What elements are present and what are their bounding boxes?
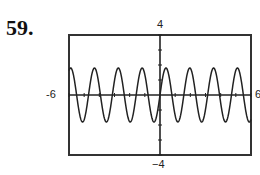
graph-plot — [0, 0, 260, 175]
